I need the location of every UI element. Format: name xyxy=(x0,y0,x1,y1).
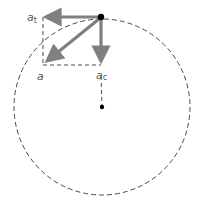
particle-point xyxy=(98,14,104,20)
diagram-canvas: at a ac xyxy=(0,0,199,216)
total-acceleration-arrow xyxy=(52,19,99,57)
label-centripetal: ac xyxy=(96,69,107,82)
label-tangential: at xyxy=(27,11,37,25)
label-total: a xyxy=(37,70,44,83)
center-point xyxy=(100,105,104,109)
